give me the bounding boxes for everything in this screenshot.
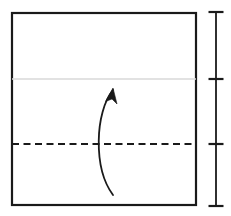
origami-fold-diagram: [0, 0, 231, 216]
height-scale-bar: [209, 12, 224, 206]
diagram-canvas: [0, 0, 231, 216]
